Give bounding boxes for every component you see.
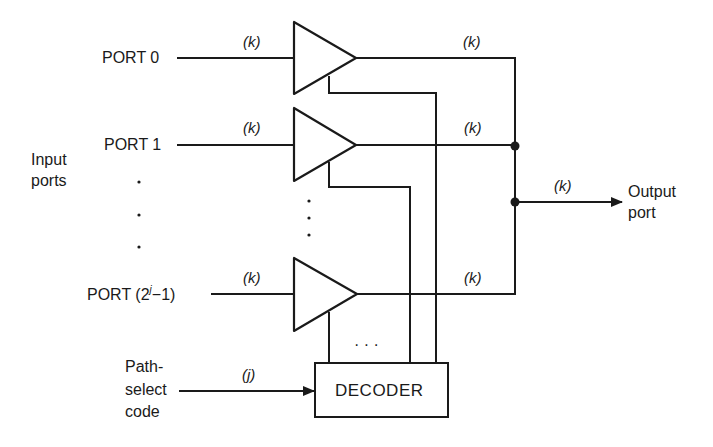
- path-select-label-line1: Path-: [125, 358, 163, 375]
- ellipsis-dot: [307, 216, 310, 219]
- input-ports-label-line1: Input: [31, 151, 67, 168]
- output-last-width-label: (k): [464, 269, 482, 286]
- control-line-0: [329, 76, 436, 363]
- tristate-buffer-1: [294, 108, 356, 181]
- output-0-width-label: (k): [463, 33, 481, 50]
- input-ports-label-line2: ports: [31, 172, 67, 189]
- output-port-label-line2: port: [628, 204, 656, 221]
- input-0-width-label: (k): [243, 33, 261, 50]
- control-ellipsis: · · ·: [354, 336, 379, 353]
- port-0-label: PORT 0: [102, 49, 159, 66]
- tristate-buffer-0: [294, 22, 356, 94]
- output-port-label-line1: Output: [628, 183, 677, 200]
- tristate-buffer-last: [294, 258, 357, 331]
- ellipsis-dot: [137, 213, 140, 216]
- junction-dot: [511, 142, 520, 151]
- output-1-width-label: (k): [464, 119, 482, 136]
- ellipsis-dot: [307, 199, 310, 202]
- ellipsis-dot: [307, 233, 310, 236]
- path-select-width-label: (j): [242, 366, 255, 383]
- ellipsis-dot: [137, 180, 140, 183]
- decoder-label: DECODER: [335, 381, 424, 400]
- port-last-label: PORT (2j−1): [87, 284, 175, 303]
- ellipsis-dot: [137, 245, 140, 248]
- control-line-1: [329, 162, 410, 363]
- multiplexer-diagram: PORT 0 PORT 1 PORT (2j−1) Input ports (k…: [0, 0, 713, 447]
- input-1-width-label: (k): [243, 119, 261, 136]
- path-select-label-line2: select: [125, 381, 167, 398]
- path-select-label-line3: code: [125, 403, 160, 420]
- output-port-width-label: (k): [554, 177, 572, 194]
- port-1-label: PORT 1: [104, 136, 161, 153]
- input-last-width-label: (k): [243, 269, 261, 286]
